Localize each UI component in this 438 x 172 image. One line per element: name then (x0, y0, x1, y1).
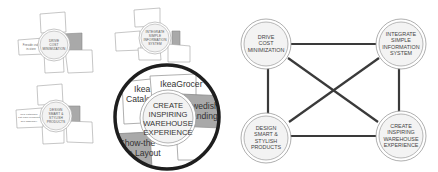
petal-left (115, 31, 141, 51)
petal-bottom-right (66, 121, 93, 143)
node-create: CREATE INSPIRING WAREHOUSE EXPERIENCE (376, 111, 426, 161)
node-label: PRODUCTS (251, 144, 282, 150)
petal-label: Fireside craft (23, 43, 40, 47)
petal-label-grocer: IkeaGrocer (160, 79, 203, 89)
petal-label-catalog: Ikea (134, 84, 150, 94)
node-label: SYSTEM (390, 50, 413, 56)
small-diagram-drive: Fireside craft in-store DRIVE COST MINIM… (18, 12, 93, 73)
node-label: PRODUCTS (47, 120, 66, 124)
node-label: INSPIRING (149, 110, 188, 119)
petal-bottom-right (65, 50, 93, 73)
petal-label-branding: wedish (191, 101, 219, 111)
node-label: EXPERIENCE (144, 128, 193, 137)
magnified-diagram: Ikea Catalog IkeaGrocer wedish anding Sh… (112, 65, 226, 170)
node-label: WAREHOUSE (383, 136, 419, 142)
petal-label: self-assembly (21, 120, 38, 123)
node-label: INFORMATION (382, 44, 419, 50)
small-diagram-integrate: INTEGRATE SIMPLE INFORMATION SYSTEM (115, 8, 190, 62)
network-edges (268, 44, 399, 136)
node-label: SIMPLE (391, 37, 411, 43)
node-label: EXPERIENCE (384, 142, 419, 148)
petal-label-layout: Store Layout (112, 148, 161, 158)
node-label: STYLISH (255, 138, 278, 144)
petal-label: in-store (26, 47, 36, 51)
small-diagram-design: Ikea catalogue flat-pack products self-a… (16, 84, 93, 144)
node-drive: DRIVE COST MINIMIZATION (241, 19, 291, 69)
node-label: DRIVE (258, 34, 275, 40)
node-label: INSPIRING (387, 129, 415, 135)
node-label: INTEGRATE (386, 31, 417, 37)
node-label: CREATE (390, 123, 412, 129)
activity-system-diagram: Fireside craft in-store DRIVE COST MINIM… (0, 0, 438, 172)
petal-right (168, 44, 190, 62)
node-label: COST (259, 40, 275, 46)
node-label: SMART & (254, 131, 278, 137)
node-design: DESIGN SMART & STYLISH PRODUCTS (241, 113, 291, 163)
node-label: MINIMIZATION (43, 47, 67, 51)
node-label: MINIMIZATION (248, 47, 285, 53)
network-diagram: DRIVE COST MINIMIZATION INTEGRATE SIMPLE… (241, 19, 426, 163)
node-integrate: INTEGRATE SIMPLE INFORMATION SYSTEM (376, 19, 426, 69)
node-label: WAREHOUSE (143, 119, 193, 128)
node-label: DESIGN (256, 125, 277, 131)
node-label: SYSTEM (148, 42, 162, 46)
node-label: CREATE (153, 101, 183, 110)
